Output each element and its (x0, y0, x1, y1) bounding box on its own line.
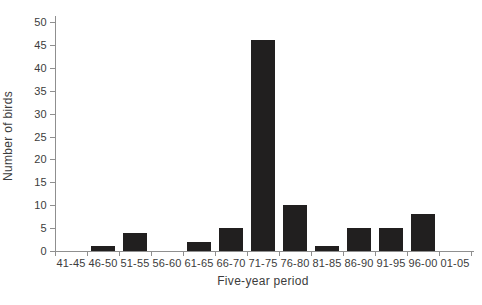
x-tick-label: 01-05 (435, 257, 475, 270)
y-tick (50, 228, 55, 229)
y-tick-label: 45 (18, 39, 47, 52)
x-tick (343, 252, 344, 256)
y-tick-label: 15 (18, 176, 47, 189)
y-tick-label: 40 (18, 62, 47, 75)
y-axis-line (55, 16, 56, 252)
x-tick (151, 252, 152, 256)
y-tick-label: 35 (18, 85, 47, 98)
y-tick (50, 45, 55, 46)
x-tick (471, 252, 472, 256)
x-tick (375, 252, 376, 256)
bar-46-50 (91, 246, 115, 251)
x-tick (55, 252, 56, 256)
y-tick (50, 68, 55, 69)
y-tick-label: 0 (18, 245, 47, 258)
y-tick-label: 30 (18, 108, 47, 121)
y-tick-label: 10 (18, 199, 47, 212)
y-tick (50, 159, 55, 160)
y-tick (50, 205, 55, 206)
x-tick (215, 252, 216, 256)
bar-51-55 (123, 233, 147, 251)
x-tick (247, 252, 248, 256)
x-axis-line (54, 251, 474, 252)
bar-86-90 (347, 228, 371, 251)
bar-81-85 (315, 246, 339, 251)
bar-chart-figure: 05101520253035404550 41-4546-5051-5556-6… (0, 0, 482, 305)
y-tick (50, 137, 55, 138)
y-tick (50, 22, 55, 23)
bar-91-95 (379, 228, 403, 251)
bar-96-00 (411, 214, 435, 251)
y-axis-title: Number of birds (1, 76, 15, 196)
plot-area: 05101520253035404550 41-4546-5051-5556-6… (0, 0, 482, 305)
bar-61-65 (187, 242, 211, 251)
x-tick (119, 252, 120, 256)
x-tick (311, 252, 312, 256)
x-tick (439, 252, 440, 256)
x-axis-title: Five-year period (163, 274, 363, 289)
y-tick-label: 5 (18, 222, 47, 235)
y-tick (50, 91, 55, 92)
x-tick (87, 252, 88, 256)
y-tick-label: 50 (18, 16, 47, 29)
bar-71-75 (251, 40, 275, 251)
x-tick (407, 252, 408, 256)
y-tick-label: 20 (18, 153, 47, 166)
y-tick (50, 182, 55, 183)
x-tick (183, 252, 184, 256)
bar-66-70 (219, 228, 243, 251)
y-tick-label: 25 (18, 131, 47, 144)
x-tick (279, 252, 280, 256)
bar-76-80 (283, 205, 307, 251)
y-tick (50, 114, 55, 115)
